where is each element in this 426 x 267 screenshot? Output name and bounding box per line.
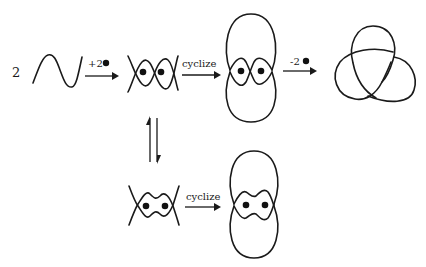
add-two-label: +2 — [88, 58, 103, 69]
ligand-dot-icon — [303, 58, 309, 64]
cyclized-top — [226, 14, 275, 122]
bound-dot-icon — [140, 69, 147, 76]
arrow-remove-two: -2 — [283, 56, 317, 75]
bound-dot-icon — [158, 69, 165, 76]
bound-dot-icon — [262, 202, 269, 209]
arrow-cyclize-top: cyclize — [182, 58, 221, 79]
wavy-open — [129, 186, 179, 225]
bound-dot-icon — [238, 68, 245, 75]
bound-dot-icon — [243, 202, 250, 209]
equilibrium-arrows — [146, 116, 161, 164]
bound-dot-icon — [162, 203, 169, 210]
bound-dot-icon — [258, 68, 265, 75]
arrow-cyclize-bottom: cyclize — [185, 191, 221, 211]
sine-strand — [33, 55, 82, 87]
trefoil-knot — [335, 26, 415, 101]
bound-dot-icon — [143, 203, 150, 210]
remove-two-label: -2 — [290, 56, 300, 67]
arrow-add-two: +2 — [85, 58, 119, 80]
ligand-dot-icon — [103, 60, 109, 66]
cyclize-label-top: cyclize — [182, 58, 217, 69]
cyclized-bottom — [230, 151, 277, 258]
knot-synthesis-diagram: 2 +2 cyclize -2 — [0, 0, 426, 267]
double-helix-open — [128, 56, 178, 92]
coefficient-label: 2 — [12, 65, 20, 80]
cyclize-label-bottom: cyclize — [186, 191, 221, 202]
